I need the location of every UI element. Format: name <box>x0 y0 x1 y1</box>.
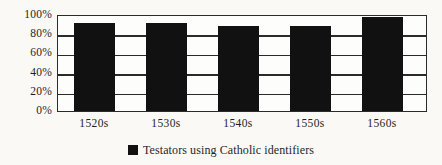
y-tick-label-100: 100% <box>0 9 52 21</box>
x-tick-label-1540s: 1540s <box>207 116 269 130</box>
bar-1550s <box>290 26 331 112</box>
y-tick-label-40: 40% <box>0 67 52 79</box>
chart-legend: Testators using Catholic identifiers <box>0 140 442 160</box>
x-axis: 1520s 1530s 1540s 1550s 1560s <box>57 116 427 136</box>
legend-color-swatch-icon <box>128 145 138 155</box>
y-axis: 100% 80% 60% 40% 20% 0% <box>0 0 54 127</box>
x-tick-label-1550s: 1550s <box>279 116 341 130</box>
x-tick-label-1560s: 1560s <box>351 116 413 130</box>
bar-1560s <box>362 17 403 111</box>
bar-chart-figure: 100% 80% 60% 40% 20% 0% 1520s 1530s 1540… <box>0 0 442 165</box>
legend-label: Testators using Catholic identifiers <box>143 144 314 157</box>
x-tick-label-1530s: 1530s <box>135 116 197 130</box>
y-tick-label-80: 80% <box>0 28 52 40</box>
y-tick-label-0: 0% <box>0 105 52 117</box>
x-tick-label-1520s: 1520s <box>63 116 125 130</box>
y-tick-label-20: 20% <box>0 86 52 98</box>
plot-area <box>57 15 427 112</box>
bar-1530s <box>146 23 187 111</box>
y-tick-label-60: 60% <box>0 47 52 59</box>
bar-1520s <box>74 23 115 111</box>
bar-1540s <box>218 26 259 112</box>
